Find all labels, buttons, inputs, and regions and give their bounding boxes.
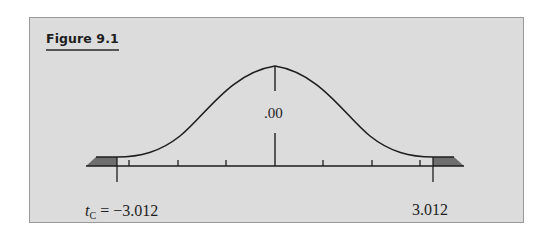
left-critical-value: = −3.012: [100, 202, 158, 219]
center-value-label: .00: [264, 105, 283, 122]
left-critical-label: tC = −3.012: [85, 202, 158, 221]
right-critical-label: 3.012: [412, 201, 448, 219]
right-rejection-region: [433, 157, 464, 166]
figure-panel: Figure 9.1 .00 tC = −3.012 3.012: [29, 17, 524, 223]
left-rejection-region: [86, 157, 117, 166]
t-subscript: C: [89, 210, 96, 221]
